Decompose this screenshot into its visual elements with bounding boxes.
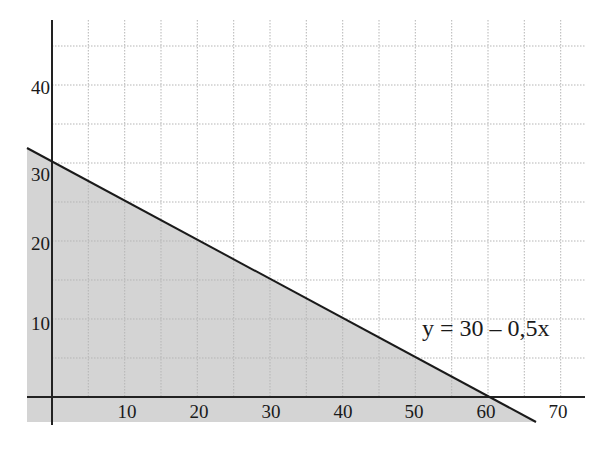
y-tick: 30 <box>31 164 50 185</box>
equation-label: y = 30 – 0,5x <box>422 315 550 341</box>
x-tick: 30 <box>262 401 281 422</box>
x-tick: 40 <box>334 401 353 422</box>
y-tick: 40 <box>31 77 50 98</box>
x-tick: 10 <box>118 401 137 422</box>
x-tick: 70 <box>549 401 568 422</box>
y-tick: 20 <box>31 233 50 254</box>
y-tick: 10 <box>31 313 50 334</box>
x-tick: 60 <box>477 401 496 422</box>
x-tick: 50 <box>405 401 424 422</box>
x-tick: 20 <box>190 401 209 422</box>
chart: 10 20 30 40 50 60 70 10 20 30 40 y = 30 … <box>0 0 611 450</box>
